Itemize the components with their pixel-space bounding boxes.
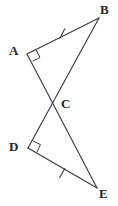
geometry-figure: A B C D E	[0, 0, 118, 206]
vertex-label-a: A	[9, 44, 18, 57]
vertex-label-d: D	[9, 140, 18, 153]
tick-mark-de	[60, 168, 65, 177]
geometry-canvas	[0, 0, 118, 206]
vertex-label-c: C	[61, 97, 70, 110]
segment-bd	[28, 18, 99, 148]
segment-ab	[27, 18, 99, 54]
right-angle-marker-a	[33, 50, 41, 61]
vertex-label-b: B	[100, 3, 109, 16]
vertex-label-e: E	[99, 187, 108, 200]
